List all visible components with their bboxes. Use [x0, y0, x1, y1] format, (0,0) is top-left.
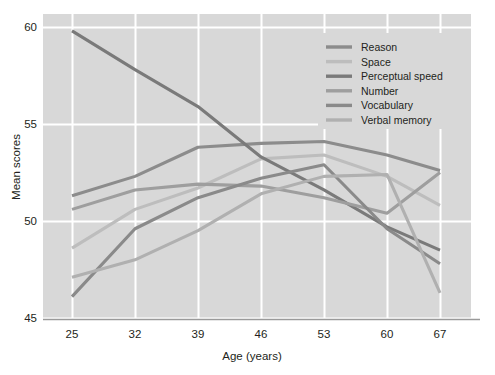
chart-figure: 60 55 50 45 25 32 39 46 53 60 67 Age (ye… — [0, 0, 495, 375]
x-tick-label-46: 46 — [255, 328, 268, 340]
legend-label-verbal-memory: Verbal memory — [361, 114, 432, 126]
x-tick-label-32: 32 — [129, 328, 142, 340]
legend-label-number: Number — [361, 85, 399, 97]
x-tick-label-67: 67 — [434, 328, 447, 340]
y-tick-label-45: 45 — [24, 312, 37, 324]
legend-label-space: Space — [361, 56, 391, 68]
legend-label-perceptual-speed: Perceptual speed — [361, 70, 443, 82]
x-tick-label-25: 25 — [66, 328, 79, 340]
legend-label-reason: Reason — [361, 41, 397, 53]
x-axis-title: Age (years) — [222, 350, 282, 362]
y-tick-label-55: 55 — [24, 118, 37, 130]
y-axis-title: Mean scores — [10, 134, 22, 200]
chart-svg: 60 55 50 45 25 32 39 46 53 60 67 Age (ye… — [0, 0, 495, 375]
y-tick-label-50: 50 — [24, 215, 37, 227]
legend-label-vocabulary: Vocabulary — [361, 99, 414, 111]
x-tick-label-39: 39 — [192, 328, 205, 340]
x-tick-label-53: 53 — [318, 328, 331, 340]
x-tick-label-60: 60 — [381, 328, 394, 340]
y-tick-label-60: 60 — [24, 21, 37, 33]
